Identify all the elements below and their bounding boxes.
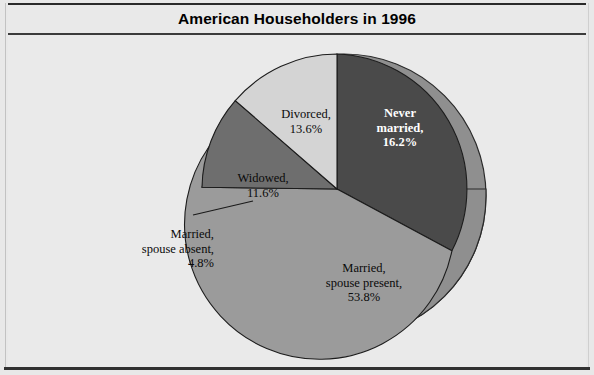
plot-area: Never married, 16.2% Divorced, 13.6% Wid…: [8, 35, 586, 367]
page-title: American Householders in 1996: [178, 10, 416, 28]
frame-right-rule: [588, 3, 589, 370]
chart-title-band: American Householders in 1996: [8, 5, 586, 33]
frame-left-rule: [5, 3, 6, 370]
frame-bottom-rule: [4, 367, 590, 370]
chart-figure: American Householders in 1996: [0, 0, 594, 375]
pie-chart-svg: [8, 35, 586, 367]
